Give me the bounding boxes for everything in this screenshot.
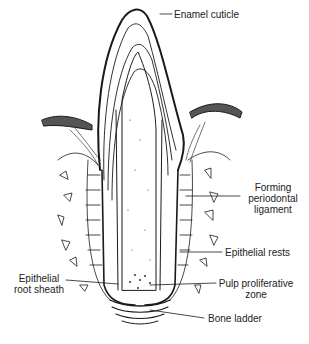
label-enamel-cuticle: Enamel cuticle <box>174 9 239 20</box>
label-line: Forming <box>241 182 305 193</box>
label-epithelial-root-sheath: Epithelial root sheath <box>10 273 68 295</box>
label-line: Epithelial <box>10 273 68 284</box>
label-line: periodontal <box>241 193 305 204</box>
label-line: zone <box>216 289 296 300</box>
label-epithelial-rests: Epithelial rests <box>225 247 290 258</box>
label-line: Pulp proliferative <box>216 278 296 289</box>
label-pulp-proliferative-zone: Pulp proliferative zone <box>216 278 296 300</box>
label-forming-periodontal-ligament: Forming periodontal ligament <box>241 182 305 215</box>
label-line: ligament <box>241 204 305 215</box>
label-bone-ladder: Bone ladder <box>208 313 262 324</box>
label-line: root sheath <box>10 284 68 295</box>
tooth-diagram: Enamel cuticle Forming periodontal ligam… <box>0 0 309 344</box>
